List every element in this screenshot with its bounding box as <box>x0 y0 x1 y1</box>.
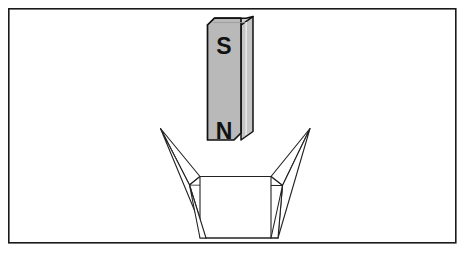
bar-magnet: S N <box>208 17 254 145</box>
magnet-funnel-diagram: S N <box>0 0 469 260</box>
magnet-pole-label-north: N <box>216 118 233 144</box>
magnet-pole-label-south: S <box>216 33 231 59</box>
figure-root: S N <box>0 0 469 260</box>
funnel-throat-front <box>200 177 271 239</box>
